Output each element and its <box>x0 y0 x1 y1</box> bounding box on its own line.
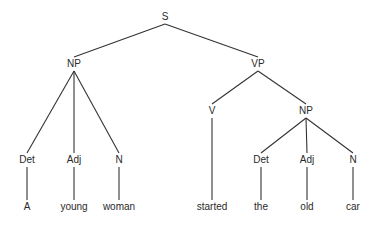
node-n-subject: N <box>114 155 123 165</box>
tree-edge <box>258 71 306 104</box>
node-adj-subject: Adj <box>66 155 82 165</box>
node-np-subject: NP <box>66 59 82 69</box>
leaf-word-a: A <box>23 202 32 212</box>
node-adj-object: Adj <box>299 155 315 165</box>
leaf-word-old: old <box>299 202 314 212</box>
node-vp: VP <box>250 59 265 69</box>
leaf-word-car: car <box>345 202 361 212</box>
tree-edge <box>27 71 74 153</box>
node-np-object: NP <box>298 106 314 116</box>
leaf-word-started: started <box>196 202 229 212</box>
tree-edge <box>212 71 258 104</box>
leaf-word-woman: woman <box>102 202 136 212</box>
tree-edge <box>74 71 119 153</box>
node-v: V <box>208 106 217 116</box>
tree-edges <box>0 0 377 226</box>
tree-edge <box>306 118 307 153</box>
syntax-tree-diagram: S NP VP Det Adj N V NP Det Adj N A young… <box>0 0 377 226</box>
tree-edge <box>261 118 306 153</box>
node-det-object: Det <box>252 155 270 165</box>
leaf-word-the: the <box>253 202 269 212</box>
tree-edge <box>74 24 165 57</box>
tree-edge <box>306 118 353 153</box>
tree-edge <box>165 24 258 57</box>
leaf-word-young: young <box>59 202 88 212</box>
node-s: S <box>161 12 170 22</box>
node-n-object: N <box>348 155 357 165</box>
node-det-subject: Det <box>18 155 36 165</box>
